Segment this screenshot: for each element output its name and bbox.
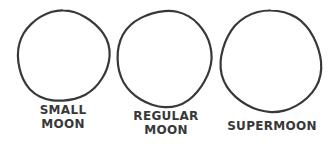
small-moon-label: SMALL MOON bbox=[40, 103, 87, 131]
regular-moon-circle bbox=[118, 11, 212, 107]
small-moon-label-line2: MOON bbox=[40, 117, 87, 131]
supermoon-circle bbox=[221, 10, 322, 112]
regular-moon-label-line2: MOON bbox=[133, 123, 198, 137]
supermoon-label-line1: SUPERMOON bbox=[227, 119, 317, 133]
small-moon-label-line1: SMALL bbox=[40, 103, 87, 117]
comic-panel: SMALL MOON REGULAR MOON SUPERMOON bbox=[0, 0, 335, 144]
regular-moon-label-line1: REGULAR bbox=[133, 109, 198, 123]
small-moon-circle bbox=[18, 10, 110, 100]
regular-moon-label: REGULAR MOON bbox=[133, 109, 198, 137]
supermoon-label: SUPERMOON bbox=[227, 119, 317, 133]
